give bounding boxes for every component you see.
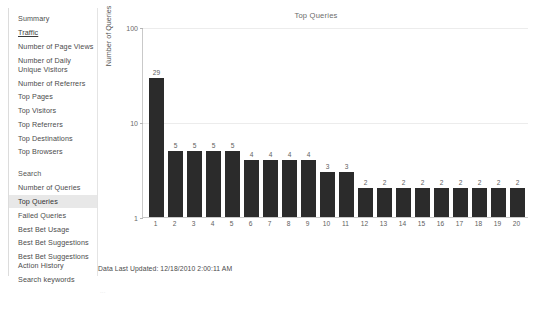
bar-slot: 2 xyxy=(375,27,394,217)
sidebar-item-traffic[interactable]: Traffic xyxy=(9,26,97,40)
sidebar-navigation: SummaryTrafficNumber of Page ViewsNumber… xyxy=(8,8,98,276)
chart-title: Top Queries xyxy=(98,11,534,20)
bar[interactable] xyxy=(396,188,411,217)
bar-slot: 5 xyxy=(223,27,242,217)
bar[interactable] xyxy=(301,160,316,217)
bar-value-label: 3 xyxy=(345,163,349,170)
bar-value-label: 2 xyxy=(383,179,387,186)
bar[interactable] xyxy=(434,188,449,217)
x-tick-label: 5 xyxy=(222,220,241,232)
x-tick-label: 13 xyxy=(374,220,393,232)
bar-value-label: 3 xyxy=(326,163,330,170)
bar-value-label: 4 xyxy=(307,151,311,158)
sidebar-item-top-visitors[interactable]: Top Visitors xyxy=(9,104,97,118)
y-tick-label-1: 1 xyxy=(112,215,138,222)
y-tickmark xyxy=(140,218,143,219)
bar[interactable] xyxy=(225,151,240,217)
x-tick-label: 4 xyxy=(203,220,222,232)
bar-value-label: 5 xyxy=(231,142,235,149)
sidebar-item-top-queries[interactable]: Top Queries xyxy=(9,195,97,209)
sidebar-item-top-referrers[interactable]: Top Referrers xyxy=(9,117,97,131)
footer-secondary-text: ... xyxy=(100,288,106,294)
sidebar-item-search: Search xyxy=(9,166,97,181)
sidebar-item-number-of-referrers[interactable]: Number of Referrers xyxy=(9,76,97,90)
bar-value-label: 5 xyxy=(212,142,216,149)
bar[interactable] xyxy=(510,188,525,217)
x-tick-label: 20 xyxy=(507,220,526,232)
x-tick-label: 18 xyxy=(469,220,488,232)
bar-slot: 2 xyxy=(356,27,375,217)
sidebar-item-top-pages[interactable]: Top Pages xyxy=(9,90,97,104)
bar-slot: 4 xyxy=(261,27,280,217)
sidebar-item-failed-queries[interactable]: Failed Queries xyxy=(9,208,97,222)
sidebar-item-best-bet-suggestions[interactable]: Best Bet Suggestions xyxy=(9,236,97,250)
x-tick-label: 17 xyxy=(450,220,469,232)
sidebar-item-number-of-daily-unique-visitors[interactable]: Number of Daily Unique Visitors xyxy=(9,53,97,76)
bar[interactable] xyxy=(339,172,354,217)
bar[interactable] xyxy=(358,188,373,217)
y-tick-label-100: 100 xyxy=(112,25,138,32)
sidebar-item-top-destinations[interactable]: Top Destinations xyxy=(9,131,97,145)
bar[interactable] xyxy=(377,188,392,217)
bar-value-label: 2 xyxy=(364,179,368,186)
bar[interactable] xyxy=(187,151,202,217)
bar-slot: 4 xyxy=(242,27,261,217)
x-tick-label: 15 xyxy=(412,220,431,232)
sidebar-item-search-keywords[interactable]: Search keywords xyxy=(9,273,97,287)
bar[interactable] xyxy=(282,160,297,217)
bar-slot: 4 xyxy=(299,27,318,217)
x-axis-tick-labels: 1234567891011121314151617181920 xyxy=(142,220,528,232)
sidebar-item-best-bet-suggestions-action-history[interactable]: Best Bet Suggestions Action History xyxy=(9,250,97,273)
bar-value-label: 2 xyxy=(440,179,444,186)
bar-slot: 5 xyxy=(185,27,204,217)
x-tick-label: 11 xyxy=(336,220,355,232)
sidebar-item-top-browsers[interactable]: Top Browsers xyxy=(9,145,97,159)
bar[interactable] xyxy=(206,151,221,217)
sidebar-item-summary[interactable]: Summary xyxy=(9,12,97,26)
sidebar-item-best-bet-usage[interactable]: Best Bet Usage xyxy=(9,222,97,236)
bar[interactable] xyxy=(453,188,468,217)
last-updated-text: Data Last Updated: 12/18/2010 2:00:11 AM xyxy=(98,265,232,272)
bar-value-label: 5 xyxy=(193,142,197,149)
x-tick-label: 1 xyxy=(146,220,165,232)
x-tick-label: 14 xyxy=(393,220,412,232)
bar-value-label: 4 xyxy=(250,151,254,158)
bar[interactable] xyxy=(415,188,430,217)
bar-value-label: 2 xyxy=(421,179,425,186)
sidebar-item-number-of-queries[interactable]: Number of Queries xyxy=(9,181,97,195)
chart-plot-area: 295555444433222222222 xyxy=(142,28,528,218)
bar[interactable] xyxy=(491,188,506,217)
bar-value-label: 5 xyxy=(174,142,178,149)
x-tick-label: 19 xyxy=(488,220,507,232)
bar-slot: 2 xyxy=(470,27,489,217)
bar-slot: 4 xyxy=(280,27,299,217)
bar-value-label: 4 xyxy=(269,151,273,158)
sidebar-item-number-of-page-views[interactable]: Number of Page Views xyxy=(9,40,97,54)
bar-slot: 2 xyxy=(508,27,527,217)
y-tick-label-10: 10 xyxy=(112,120,138,127)
bar[interactable] xyxy=(320,172,335,217)
x-tick-label: 10 xyxy=(317,220,336,232)
bar-slot: 2 xyxy=(489,27,508,217)
bar[interactable] xyxy=(472,188,487,217)
bar-slot: 3 xyxy=(318,27,337,217)
x-tick-label: 12 xyxy=(355,220,374,232)
x-tick-label: 7 xyxy=(260,220,279,232)
x-tick-label: 9 xyxy=(298,220,317,232)
chart-plot-wrapper: Number of Queries 110100 295555444433222… xyxy=(98,28,534,238)
bar-slot: 5 xyxy=(204,27,223,217)
report-content: Top Queries Number of Queries 110100 295… xyxy=(98,0,534,309)
x-tick-label: 6 xyxy=(241,220,260,232)
bar[interactable] xyxy=(263,160,278,217)
bar-slot: 29 xyxy=(147,27,166,217)
x-tick-label: 3 xyxy=(184,220,203,232)
bar[interactable] xyxy=(244,160,259,217)
bar-value-label: 2 xyxy=(497,179,501,186)
bar[interactable] xyxy=(149,78,164,217)
bar-value-label: 2 xyxy=(459,179,463,186)
bar-value-label: 29 xyxy=(153,69,160,76)
y-axis-tick-labels: 110100 xyxy=(110,28,138,218)
bar[interactable] xyxy=(168,151,183,217)
bar-value-label: 2 xyxy=(516,179,520,186)
bar-slot: 2 xyxy=(394,27,413,217)
